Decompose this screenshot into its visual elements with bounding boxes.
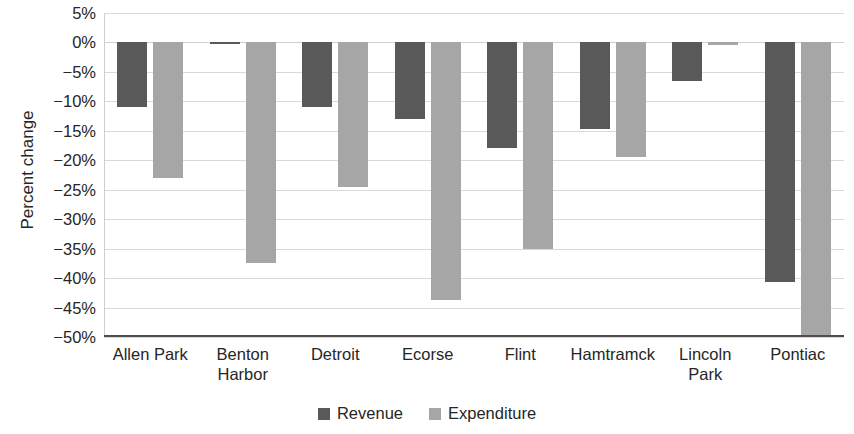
x-tick-label: LincolnPark: [659, 344, 752, 384]
bar-revenue-benton-harbor: [210, 42, 240, 44]
gridline: [104, 278, 844, 279]
plot-area: [104, 13, 844, 337]
x-tick-label-line: Benton: [197, 344, 290, 364]
gridline: [104, 308, 844, 309]
bar-revenue-ecorse: [395, 42, 425, 119]
x-tick-label-line: Park: [659, 364, 752, 384]
gridline: [104, 160, 844, 161]
y-tick-label: −45%: [40, 299, 96, 316]
gridline: [104, 72, 844, 73]
bar-expenditure-benton-harbor: [246, 42, 276, 263]
gridline: [104, 190, 844, 191]
y-tick-label: 5%: [40, 5, 96, 22]
legend-swatch-expenditure-icon: [429, 408, 441, 420]
y-tick-label: −5%: [40, 64, 96, 81]
bar-revenue-pontiac: [765, 42, 795, 282]
bar-expenditure-detroit: [338, 42, 368, 186]
x-tick-label-line: Pontiac: [752, 344, 845, 364]
x-tick-label: Flint: [474, 344, 567, 364]
x-tick-label: BentonHarbor: [197, 344, 290, 384]
bar-expenditure-lincoln-park: [708, 42, 738, 45]
bar-expenditure-pontiac: [801, 42, 831, 337]
y-tick-label: −25%: [40, 181, 96, 198]
y-tick-label: −50%: [40, 329, 96, 346]
bar-expenditure-flint: [523, 42, 553, 248]
y-axis-title: Percent change: [18, 50, 38, 290]
gridline: [104, 131, 844, 132]
x-tick-label-line: Flint: [474, 344, 567, 364]
bar-revenue-hamtramck: [580, 42, 610, 129]
x-tick-label-line: Hamtramck: [567, 344, 660, 364]
y-tick-label: −10%: [40, 93, 96, 110]
legend-item-revenue[interactable]: Revenue: [318, 404, 403, 423]
bar-revenue-flint: [487, 42, 517, 148]
x-tick-label: Allen Park: [104, 344, 197, 364]
x-tick-label-line: Lincoln: [659, 344, 752, 364]
x-tick-label: Pontiac: [752, 344, 845, 364]
bar-expenditure-allen-park: [153, 42, 183, 177]
legend-label: Revenue: [337, 404, 403, 423]
gridline: [104, 337, 844, 338]
bar-revenue-allen-park: [117, 42, 147, 107]
legend-label: Expenditure: [448, 404, 536, 423]
chart-legend: RevenueExpenditure: [0, 404, 854, 423]
x-tick-label-line: Allen Park: [104, 344, 197, 364]
x-tick-label-line: Detroit: [289, 344, 382, 364]
y-tick-label: −35%: [40, 240, 96, 257]
bar-revenue-lincoln-park: [672, 42, 702, 80]
x-tick-label-line: Ecorse: [382, 344, 475, 364]
bar-revenue-detroit: [302, 42, 332, 107]
x-axis-line: [104, 335, 844, 337]
gridline: [104, 101, 844, 102]
y-tick-label: −40%: [40, 270, 96, 287]
gridline: [104, 13, 844, 14]
y-tick-label: 0%: [40, 34, 96, 51]
bar-expenditure-hamtramck: [616, 42, 646, 157]
x-tick-label: Detroit: [289, 344, 382, 364]
y-tick-label: −15%: [40, 123, 96, 140]
y-axis-line: [104, 13, 105, 337]
y-axis-tick-labels: 5%0%−5%−10%−15%−20%−25%−30%−35%−40%−45%−…: [40, 13, 96, 337]
y-tick-label: −20%: [40, 152, 96, 169]
legend-swatch-revenue-icon: [318, 408, 330, 420]
x-tick-label-line: Harbor: [197, 364, 290, 384]
gridline: [104, 249, 844, 250]
gridline: [104, 219, 844, 220]
legend-item-expenditure[interactable]: Expenditure: [429, 404, 536, 423]
y-tick-label: −30%: [40, 211, 96, 228]
bar-expenditure-ecorse: [431, 42, 461, 299]
x-tick-label: Ecorse: [382, 344, 475, 364]
x-axis-tick-labels: Allen ParkBentonHarborDetroitEcorseFlint…: [104, 344, 844, 390]
x-tick-label: Hamtramck: [567, 344, 660, 364]
bar-chart: Percent change 5%0%−5%−10%−15%−20%−25%−3…: [0, 0, 854, 434]
